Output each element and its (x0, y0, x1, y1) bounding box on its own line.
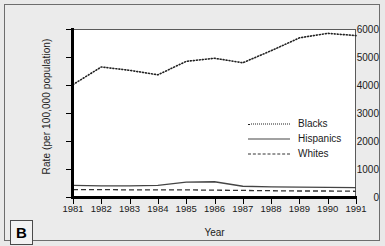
x-tick-label: 1986 (204, 203, 225, 214)
chart-legend: BlacksHispanicsWhites (248, 116, 353, 161)
x-axis-label: Year (73, 227, 356, 238)
x-tick-label: 1991 (345, 203, 366, 214)
legend-item-hispanics[interactable]: Hispanics (248, 131, 353, 146)
legend-swatch-dashed-line-icon (248, 150, 290, 158)
panel-letter-badge: B (10, 220, 33, 245)
figure-panel-b: 0100020003000400050006000 19811982198319… (0, 0, 385, 246)
x-tick-mark (328, 199, 329, 204)
x-tick-label: 1982 (91, 203, 112, 214)
x-tick-mark (158, 199, 159, 204)
figure-frame: 0100020003000400050006000 19811982198319… (4, 4, 380, 241)
legend-label: Blacks (298, 118, 327, 129)
x-tick-mark (130, 199, 131, 204)
x-tick-mark (215, 199, 216, 204)
x-tick-label: 1983 (119, 203, 140, 214)
legend-swatch-solid-line-icon (248, 135, 290, 143)
x-tick-label: 1984 (147, 203, 168, 214)
legend-item-whites[interactable]: Whites (248, 146, 353, 161)
x-tick-mark (101, 199, 102, 204)
legend-swatch-dotted-line-icon (248, 120, 290, 128)
x-tick-mark (299, 199, 300, 204)
x-tick-mark (186, 199, 187, 204)
x-tick-label: 1987 (232, 203, 253, 214)
y-axis-label: Rate (per 100,000 population) (41, 12, 52, 202)
legend-label: Whites (298, 148, 329, 159)
x-tick-mark (356, 199, 357, 204)
legend-label: Hispanics (298, 133, 341, 144)
x-tick-label: 1990 (317, 203, 338, 214)
x-tick-mark (271, 199, 272, 204)
x-tick-label: 1985 (176, 203, 197, 214)
x-tick-label: 1981 (62, 203, 83, 214)
x-tick-label: 1988 (261, 203, 282, 214)
x-tick-label: 1989 (289, 203, 310, 214)
x-tick-mark (243, 199, 244, 204)
legend-item-blacks[interactable]: Blacks (248, 116, 353, 131)
x-tick-mark (73, 199, 74, 204)
